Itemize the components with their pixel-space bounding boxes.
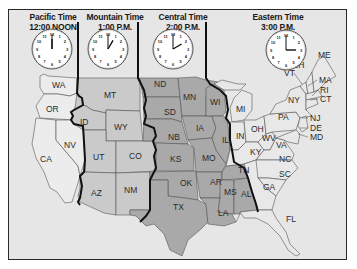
label-md: MD — [310, 132, 323, 142]
label-mo: MO — [202, 153, 216, 163]
label-ar: AR — [210, 177, 222, 187]
svg-text:10: 10 — [93, 39, 98, 44]
label-mn: MN — [183, 92, 196, 102]
label-az: AZ — [91, 188, 102, 198]
clock-eastern: 121234567891011 — [266, 30, 306, 70]
clock-pacific: 121234567891011 — [32, 29, 72, 69]
label-ut: UT — [93, 152, 104, 162]
label-wi: WI — [210, 97, 220, 107]
label-la: LA — [218, 208, 229, 218]
label-wa: WA — [52, 80, 66, 90]
state-nb — [143, 119, 188, 144]
label-nm: NM — [124, 185, 137, 195]
label-il: IL — [222, 135, 229, 145]
label-sd: SD — [164, 107, 176, 117]
label-me: ME — [318, 50, 331, 60]
label-ms: MS — [224, 187, 237, 197]
label-nb: NB — [168, 132, 180, 142]
label-ca: CA — [40, 154, 52, 164]
label-ga: GA — [263, 182, 276, 192]
label-wy: WY — [114, 122, 128, 132]
us-time-zone-map: WA OR CA NV MT ID WY UT CO AZ NM ND SD N… — [0, 0, 357, 269]
state-sd — [143, 97, 182, 122]
svg-text:10: 10 — [271, 40, 276, 45]
label-sc: SC — [279, 169, 291, 179]
label-ma: MA — [319, 75, 332, 85]
label-nv: NV — [64, 140, 76, 150]
label-nd: ND — [154, 79, 166, 89]
label-or: OR — [46, 104, 59, 114]
gulf-coast — [236, 214, 240, 222]
label-va: VA — [276, 140, 287, 150]
label-ia: IA — [196, 123, 204, 133]
label-wv: WV — [262, 133, 276, 143]
label-ok: OK — [180, 178, 193, 188]
label-nc: NC — [279, 154, 291, 164]
label-mi: MI — [236, 104, 245, 114]
label-nj: NJ — [310, 113, 320, 123]
label-id: ID — [80, 117, 89, 127]
label-mt: MT — [104, 90, 116, 100]
svg-text:10: 10 — [37, 39, 42, 44]
label-tx: TX — [173, 202, 184, 212]
label-in: IN — [236, 131, 245, 141]
svg-text:10: 10 — [158, 39, 163, 44]
label-tn: TN — [238, 165, 249, 175]
label-pa: PA — [278, 112, 289, 122]
clock-central: 121234567891011 — [153, 29, 193, 69]
label-al: AL — [241, 189, 252, 199]
label-ny: NY — [288, 95, 300, 105]
label-ky: KY — [250, 147, 262, 157]
label-co: CO — [129, 151, 142, 161]
label-ks: KS — [170, 154, 182, 164]
label-fl: FL — [286, 214, 296, 224]
label-ct: CT — [320, 94, 331, 104]
clocks: 1212345678910111212345678910111212345678… — [32, 29, 306, 70]
clock-mountain: 121234567891011 — [88, 29, 128, 69]
